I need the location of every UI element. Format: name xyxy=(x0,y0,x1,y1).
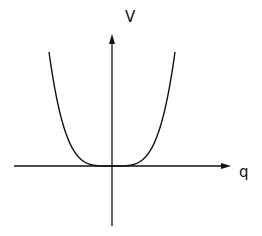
v-axis-arrow-icon xyxy=(109,34,115,44)
q-axis-arrow-icon xyxy=(221,163,231,169)
q-axis-label: q xyxy=(239,165,249,180)
diagram-svg xyxy=(0,0,262,236)
v-axis-label: V xyxy=(125,10,135,25)
potential-diagram: V q xyxy=(0,0,262,236)
